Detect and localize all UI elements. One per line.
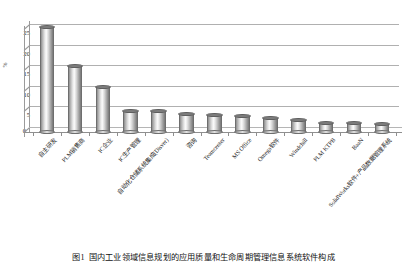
x-axis-tick <box>117 133 118 136</box>
x-axis-label: MS Office <box>232 137 254 160</box>
x-axis-label: 自主研发 <box>37 137 58 159</box>
bar <box>375 124 390 132</box>
x-axis-label: IC企业 <box>97 137 114 155</box>
x-axis-label: 咨询 <box>185 137 198 150</box>
bar <box>347 123 362 132</box>
bar-series <box>0 0 407 150</box>
x-axis-tick <box>61 133 62 136</box>
x-axis-label: IC生产管理 <box>117 137 142 164</box>
x-axis-label: PLM KTPB <box>313 137 338 163</box>
x-axis-label: PLM销售商 <box>61 137 86 164</box>
x-axis-tick <box>228 133 229 136</box>
bar <box>123 111 138 132</box>
bar <box>291 120 306 132</box>
bar <box>263 118 278 132</box>
bar <box>319 123 334 132</box>
x-axis-tick <box>312 133 313 136</box>
x-axis-tick <box>256 133 257 136</box>
x-axis-tick <box>145 133 146 136</box>
x-axis-tick <box>340 133 341 136</box>
bar <box>40 27 55 132</box>
x-axis-label: BaaN <box>351 137 365 152</box>
x-axis-label: Windchill <box>288 137 309 159</box>
bar-body <box>96 87 111 132</box>
bar <box>207 115 222 132</box>
x-axis-tick <box>33 133 34 136</box>
bar-top-ellipse <box>374 122 391 126</box>
bar-body <box>68 66 83 132</box>
x-axis-label: Teamcenter <box>202 137 226 162</box>
x-axis-category-labels: 自主研发PLM销售商IC企业IC生产管理自动化仓储系统集成(Disver)咨询T… <box>0 133 407 243</box>
caption-label: 图1 <box>72 253 85 262</box>
bar-body <box>123 111 138 132</box>
bar <box>179 114 194 132</box>
figure-caption: 图1国内工业领域信息规划的应用质量和生命周期管理信息系统软件构成 <box>0 250 407 262</box>
bar <box>68 66 83 132</box>
bar <box>235 116 250 132</box>
caption-text: 国内工业领域信息规划的应用质量和生命周期管理信息系统软件构成 <box>89 253 335 262</box>
bar-body <box>40 27 55 132</box>
chart-figure: % 5101520250 自主研发PLM销售商IC企业IC生产管理自动化仓储系统… <box>0 0 407 265</box>
x-axis-label: 自动化仓储系统集成(Disver) <box>116 137 170 196</box>
x-axis-tick <box>201 133 202 136</box>
bar-body <box>151 111 166 132</box>
x-axis-tick <box>368 133 369 136</box>
bar-top-ellipse <box>262 116 279 120</box>
plot-area: % 5101520250 <box>0 0 407 150</box>
bar-top-ellipse <box>290 118 307 122</box>
x-axis-tick <box>396 133 397 136</box>
bar-top-ellipse <box>95 85 112 89</box>
bar <box>96 87 111 132</box>
x-axis-tick <box>89 133 90 136</box>
x-axis-label: Omega软件 <box>257 137 282 163</box>
bar <box>151 111 166 132</box>
bar-top-ellipse <box>206 113 223 117</box>
x-axis-tick <box>284 133 285 136</box>
x-axis-label: SolidWorks软件+产品数据管理系统 <box>327 137 393 209</box>
x-axis-tick <box>173 133 174 136</box>
bar-top-ellipse <box>346 121 363 125</box>
